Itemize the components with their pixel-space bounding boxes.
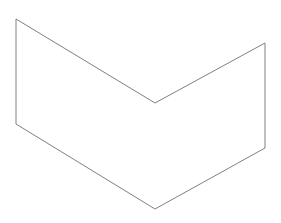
diagram-canvas (0, 0, 281, 223)
chevron-shape-svg (0, 0, 281, 223)
chevron-shape (16, 19, 265, 209)
